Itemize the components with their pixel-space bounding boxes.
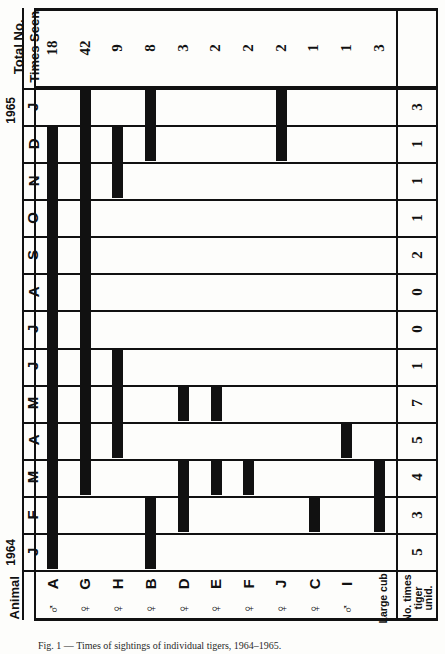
animal-sex-A: ♂ [36, 598, 69, 620]
animal-sex-I: ♂ [331, 598, 364, 620]
unid-value-text: 0 [410, 325, 426, 333]
presence-bar-B [145, 497, 156, 569]
male-symbol-icon: ♂ [44, 603, 60, 614]
total-value-text: 9 [110, 44, 126, 52]
total-value-F: 2 [232, 10, 265, 86]
month-label-text: N [25, 175, 41, 186]
animal-sex-B: ♀ [134, 598, 167, 620]
year-label-1965: 1965 [0, 88, 22, 132]
animal-id-text: B [143, 579, 159, 590]
unid-value-text: 7 [410, 399, 426, 407]
total-value-text: 1 [306, 44, 322, 52]
female-symbol-icon: ♀ [306, 603, 322, 614]
month-label-text: J [25, 362, 41, 370]
presence-bar-D [178, 460, 189, 532]
unid-value-text: 2 [410, 251, 426, 259]
axis-divider-left [22, 8, 24, 620]
total-value-E: 2 [200, 10, 233, 86]
presence-bar-B [145, 89, 156, 161]
animal-id-text: J [274, 580, 290, 588]
total-value-text: 1 [339, 44, 355, 52]
presence-bar-A [47, 126, 58, 569]
unid-value-text: 3 [410, 511, 426, 519]
presence-bar-I [341, 423, 352, 458]
total-value-A: 18 [36, 10, 69, 86]
month-label-text: M [25, 471, 41, 484]
animal-sex-G: ♀ [69, 598, 102, 620]
female-symbol-icon: ♀ [110, 603, 126, 614]
unid-value-text: 1 [410, 177, 426, 185]
total-value-Large cub: 3 [363, 10, 396, 86]
female-symbol-icon: ♀ [208, 603, 224, 614]
unid-value-6: 0 [398, 310, 438, 347]
month-label-text: J [25, 547, 41, 555]
large-cub-label-cell: Large cub [368, 572, 398, 624]
animal-sex-E: ♀ [200, 598, 233, 620]
month-label-9: A [22, 422, 44, 459]
month-label-5: A [22, 273, 44, 310]
bottom-rule [34, 618, 438, 621]
unid-value-4: 2 [398, 236, 438, 273]
unid-value-text: 3 [410, 103, 426, 111]
animal-id-E: E [200, 572, 233, 596]
total-value-G: 42 [69, 10, 102, 86]
animal-id-text: A [44, 579, 60, 590]
month-label-text: M [25, 397, 41, 410]
month-label-text: O [25, 212, 41, 224]
animal-id-A: A [36, 572, 69, 596]
total-value-text: 18 [44, 41, 60, 56]
unid-value-5: 0 [398, 273, 438, 310]
year-1965-text: 1965 [5, 97, 18, 124]
animal-axis-label: Animal [0, 572, 30, 624]
animal-id-I: I [331, 572, 364, 596]
month-label-0: J [22, 88, 44, 125]
animal-axis-text: Animal [8, 576, 22, 619]
female-symbol-icon: ♀ [77, 603, 93, 614]
animal-id-D: D [167, 572, 200, 596]
large-cub-text: Large cub [378, 573, 389, 623]
unid-value-text: 1 [410, 140, 426, 148]
animal-id-F: F [232, 572, 265, 596]
animal-id-B: B [134, 572, 167, 596]
month-label-3: O [22, 199, 44, 236]
animal-id-text: I [339, 582, 355, 586]
animal-id-H: H [101, 572, 134, 596]
animal-id-G: G [69, 572, 102, 596]
figure-caption: Fig. 1 — Times of sightings of individua… [38, 640, 438, 651]
animal-sex-H: ♀ [101, 598, 134, 620]
unid-value-text: 0 [410, 288, 426, 296]
total-value-J: 2 [265, 10, 298, 86]
female-symbol-icon: ♀ [274, 603, 290, 614]
animal-id-C: C [298, 572, 331, 596]
total-value-text: 2 [208, 44, 224, 52]
unid-value-text: 1 [410, 362, 426, 370]
unid-value-8: 7 [398, 385, 438, 422]
presence-bar-D [178, 386, 189, 421]
animal-id-J: J [265, 572, 298, 596]
animal-id-text: F [241, 579, 257, 588]
unid-value-10: 4 [398, 459, 438, 496]
total-value-text: 8 [143, 44, 159, 52]
unid-label-line3: unid. [422, 585, 434, 610]
month-label-12: J [22, 533, 44, 570]
month-label-4: S [22, 236, 44, 273]
animal-id-text: D [175, 579, 191, 590]
male-symbol-icon: ♂ [339, 603, 355, 614]
female-symbol-icon: ♀ [143, 603, 159, 614]
month-label-text: D [25, 138, 41, 149]
figure-root: Total No. Times Seen 1965 1964 Animal JD… [0, 0, 445, 654]
presence-bar-J [276, 89, 287, 161]
total-value-text: 42 [77, 41, 93, 56]
year-label-1964: 1964 [0, 530, 22, 574]
month-label-8: M [22, 385, 44, 422]
female-symbol-icon: ♀ [175, 603, 191, 614]
presence-bar-Large cub [374, 460, 385, 532]
presence-bar-F [243, 460, 254, 495]
total-value-C: 1 [298, 10, 331, 86]
animal-sex-D: ♀ [167, 598, 200, 620]
total-value-B: 8 [134, 10, 167, 86]
unid-value-text: 5 [410, 548, 426, 556]
animal-sex-J: ♀ [265, 598, 298, 620]
presence-bar-H [112, 126, 123, 198]
unid-value-7: 1 [398, 348, 438, 385]
